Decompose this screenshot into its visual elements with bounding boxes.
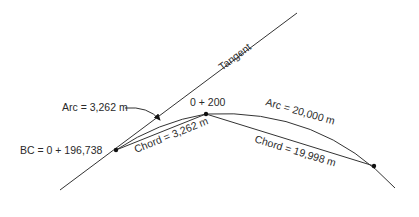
long-chord <box>206 114 374 166</box>
arc-long-label: Arc = 20,000 m <box>264 95 336 126</box>
bc-point <box>114 148 118 152</box>
chord-short-label: Chord = 3,262 m <box>132 114 210 154</box>
station-220-point <box>372 164 376 168</box>
curve-diagram: Tangent BC = 0 + 196,738 0 + 200 Arc = 3… <box>0 0 419 217</box>
arc-leader <box>125 108 160 120</box>
diagram-svg: Tangent BC = 0 + 196,738 0 + 200 Arc = 3… <box>0 0 419 217</box>
tangent-label: Tangent <box>216 41 253 73</box>
station-200-label: 0 + 200 <box>190 96 225 108</box>
arc-short-label: Arc = 3,262 m <box>62 101 128 113</box>
bc-label: BC = 0 + 196,738 <box>20 144 102 156</box>
